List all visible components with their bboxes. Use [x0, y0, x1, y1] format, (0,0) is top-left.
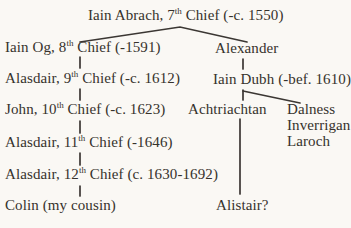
- tree-node-inverrigan: Inverrigan: [287, 117, 350, 134]
- tree-node-alasdair-12th-chief: Alasdair, 12th Chief (c. 1630-1692): [5, 166, 218, 183]
- node-label: Colin (my cousin): [5, 197, 116, 213]
- node-label: Dalness: [287, 101, 335, 117]
- node-label: Laroch: [287, 133, 330, 149]
- tree-node-alexander: Alexander: [215, 40, 278, 57]
- node-label: Alexander: [215, 40, 278, 56]
- ordinal-superscript: th: [175, 6, 182, 16]
- node-label: Alasdair, 11: [5, 134, 78, 150]
- node-label: Inverrigan: [287, 117, 350, 133]
- node-label: Chief (-c. 1550): [182, 7, 284, 23]
- node-label: Iain Dubh (-bef. 1610): [213, 71, 351, 87]
- tree-node-iain-dubh: Iain Dubh (-bef. 1610): [213, 71, 351, 88]
- node-label: Chief (-c. 1623): [64, 101, 166, 117]
- family-tree-diagram: Iain Abrach, 7th Chief (-c. 1550) Iain O…: [0, 0, 351, 228]
- tree-node-laroch: Laroch: [287, 133, 330, 150]
- tree-node-alasdair-11th-chief: Alasdair, 11th Chief (-1646): [5, 134, 173, 151]
- tree-node-achtriachtan: Achtriachtan: [188, 101, 267, 118]
- node-label: Alistair?: [216, 197, 269, 213]
- node-label: Achtriachtan: [188, 101, 267, 117]
- tree-node-alistair: Alistair?: [216, 197, 269, 214]
- node-label: Iain Og, 8: [5, 39, 66, 55]
- tree-node-alasdair-9th-chief: Alasdair, 9th Chief (-c. 1612): [5, 70, 180, 87]
- tree-node-dalness: Dalness: [287, 101, 335, 118]
- node-label: John, 10: [5, 101, 57, 117]
- node-label: Alasdair, 12: [5, 166, 79, 182]
- node-label: Chief (c. 1630-1692): [86, 166, 218, 182]
- ordinal-superscript: th: [79, 165, 86, 175]
- node-label: Alasdair, 9: [5, 70, 71, 86]
- node-label: Chief (-c. 1612): [78, 70, 180, 86]
- tree-node-colin: Colin (my cousin): [5, 197, 116, 214]
- node-label: Chief (-1591): [73, 39, 160, 55]
- tree-node-john-10th-chief: John, 10th Chief (-c. 1623): [5, 101, 165, 118]
- tree-node-iain-abrach-7th-chief: Iain Abrach, 7th Chief (-c. 1550): [88, 7, 283, 24]
- ordinal-superscript: th: [57, 100, 64, 110]
- node-label: Chief (-1646): [85, 134, 172, 150]
- tree-node-iain-og-8th-chief: Iain Og, 8th Chief (-1591): [5, 39, 161, 56]
- node-label: Iain Abrach, 7: [88, 7, 175, 23]
